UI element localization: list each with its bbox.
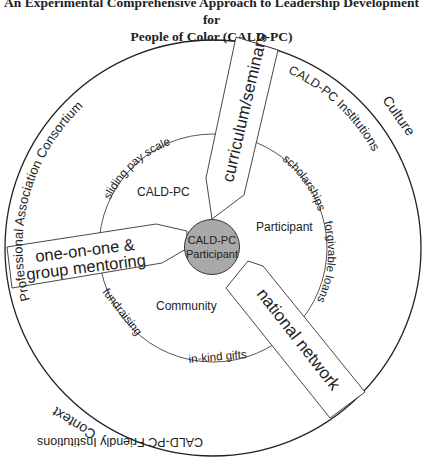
center-label-line-1: CALD-PC — [188, 234, 236, 246]
leadership-diagram: curriculum/seminars one-on-one & group m… — [0, 0, 423, 476]
sector-label-participant: Participant — [256, 220, 313, 234]
label-in-kind-gifts: in-kind gifts — [188, 348, 247, 365]
label-fundraising: fundraising — [100, 286, 144, 338]
label-forgivable-loans: forgivable loans — [315, 220, 338, 306]
spoke-national-network: national network — [226, 261, 365, 418]
label-cald-pc-friendly-institutions: CALD-PC Friendly Institutions — [37, 435, 203, 449]
center-node: CALD-PC Participant — [185, 220, 240, 275]
label-scholarships: scholarships — [281, 152, 328, 212]
label-cald-pc-institutions: CALD-PC Institutions — [287, 63, 383, 154]
center-label-line-2: Participant — [186, 248, 238, 260]
sector-label-community: Community — [156, 299, 217, 313]
sector-label-cald-pc: CALD-PC — [137, 185, 190, 199]
spoke-curriculum-seminars: curriculum/seminars — [206, 31, 278, 219]
spoke-mentoring: one-on-one & group mentoring — [7, 224, 187, 288]
